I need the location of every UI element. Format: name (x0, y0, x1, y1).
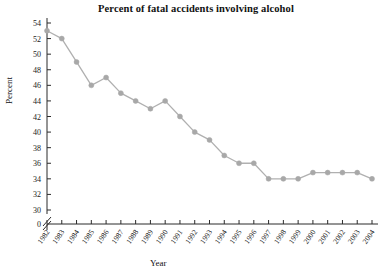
data-point-marker (340, 170, 345, 175)
data-point-marker (45, 28, 50, 33)
data-point-marker (74, 59, 79, 64)
x-axis-ticks (47, 220, 372, 224)
x-tick-label: 1989 (139, 228, 155, 246)
data-point-marker (207, 137, 212, 142)
x-tick-label: 2004 (361, 228, 377, 246)
x-tick-label: 1990 (154, 228, 170, 246)
x-tick-label: 1994 (213, 228, 229, 246)
y-tick-label: 32 (33, 190, 41, 199)
x-tick-label: 2002 (331, 228, 347, 246)
data-point-marker (89, 83, 94, 88)
x-tick-label: 1982 (36, 228, 52, 246)
x-tick-label: 1992 (183, 228, 199, 246)
data-point-marker (222, 153, 227, 158)
data-point-marker (133, 98, 138, 103)
x-tick-label: 1991 (169, 228, 185, 246)
y-axis-origin-label: 0 (37, 220, 41, 229)
data-point-marker (163, 98, 168, 103)
data-point-marker (177, 114, 182, 119)
data-point-markers (45, 28, 375, 181)
x-tick-label: 1995 (228, 228, 244, 246)
axis-lines (43, 18, 378, 230)
x-tick-label: 2000 (301, 228, 317, 246)
data-point-marker (148, 106, 153, 111)
data-point-marker (59, 36, 64, 41)
x-tick-label: 1993 (198, 228, 214, 246)
y-tick-label: 40 (33, 128, 41, 137)
data-point-marker (310, 170, 315, 175)
y-tick-label: 46 (33, 81, 41, 90)
y-axis-title: Percent (4, 90, 14, 104)
chart-title: Percent of fatal accidents involving alc… (0, 3, 392, 14)
y-tick-label: 36 (33, 159, 41, 168)
data-point-marker (104, 75, 109, 80)
y-axis-ticks: 303234363840424446485052540 (33, 19, 51, 229)
x-tick-label: 1999 (287, 228, 303, 246)
data-point-marker (296, 176, 301, 181)
y-tick-label: 52 (33, 35, 41, 44)
x-tick-label: 1986 (95, 228, 111, 246)
data-point-marker (266, 176, 271, 181)
data-point-marker (370, 176, 375, 181)
y-tick-label: 48 (33, 66, 41, 75)
y-tick-label: 34 (33, 175, 41, 184)
data-point-marker (237, 161, 242, 166)
data-point-marker (118, 91, 123, 96)
x-axis-tick-labels: 1982198319841985198619871988198919901991… (36, 228, 377, 246)
y-tick-label: 38 (33, 144, 41, 153)
x-tick-label: 1983 (50, 228, 66, 246)
x-tick-label: 1996 (242, 228, 258, 246)
x-tick-label: 1985 (80, 228, 96, 246)
x-tick-label: 2003 (346, 228, 362, 246)
chart-plot-area: 303234363840424446485052540 198219831984… (0, 0, 392, 277)
y-tick-label: 44 (33, 97, 41, 106)
data-point-marker (355, 170, 360, 175)
data-point-marker (251, 161, 256, 166)
y-tick-label: 30 (33, 206, 41, 215)
x-tick-label: 1987 (109, 228, 125, 246)
data-point-marker (192, 130, 197, 135)
chart-container: Percent of fatal accidents involving alc… (0, 0, 392, 277)
x-tick-label: 1997 (257, 228, 273, 246)
y-tick-label: 42 (33, 113, 41, 122)
data-series-line (47, 31, 372, 179)
x-tick-label: 1984 (65, 228, 81, 246)
x-tick-label: 1998 (272, 228, 288, 246)
y-tick-label: 50 (33, 50, 41, 59)
x-tick-label: 2001 (316, 228, 332, 246)
y-tick-label: 54 (33, 19, 41, 28)
x-axis-title: Year (150, 258, 167, 268)
data-point-marker (325, 170, 330, 175)
data-point-marker (281, 176, 286, 181)
x-tick-label: 1988 (124, 228, 140, 246)
